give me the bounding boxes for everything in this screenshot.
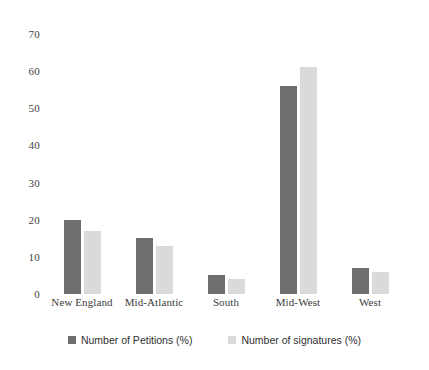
bar-chart: 706050403020100 New EnglandMid-AtlanticS… <box>0 0 429 370</box>
x-axis-label: Mid-Atlantic <box>118 296 190 316</box>
x-axis-label: Mid-West <box>262 296 334 316</box>
plot-area <box>46 34 406 294</box>
bar-group <box>262 34 334 294</box>
legend-swatch-icon <box>68 336 76 344</box>
legend-entry[interactable]: Number of Petitions (%) <box>68 334 192 346</box>
bar-group <box>334 34 406 294</box>
y-axis-tick: 20 <box>29 214 40 226</box>
y-axis: 706050403020100 <box>0 34 40 294</box>
bar-group <box>118 34 190 294</box>
bar[interactable] <box>84 231 101 294</box>
bar[interactable] <box>228 279 245 294</box>
bar[interactable] <box>300 67 317 294</box>
bar[interactable] <box>136 238 153 294</box>
bar-group <box>190 34 262 294</box>
y-axis-tick: 70 <box>29 28 40 40</box>
y-axis-tick: 40 <box>29 139 40 151</box>
x-axis-labels: New EnglandMid-AtlanticSouthMid-WestWest <box>46 296 406 316</box>
chart-legend: Number of Petitions (%)Number of signatu… <box>0 334 429 346</box>
x-axis-label: South <box>190 296 262 316</box>
bars-layer <box>46 34 406 294</box>
x-axis-label: West <box>334 296 406 316</box>
bar[interactable] <box>64 220 81 294</box>
legend-swatch-icon <box>228 336 236 344</box>
y-axis-tick: 50 <box>29 102 40 114</box>
y-axis-tick: 0 <box>34 288 40 300</box>
bar-group <box>46 34 118 294</box>
x-axis-label: New England <box>46 296 118 316</box>
y-axis-tick: 60 <box>29 65 40 77</box>
legend-entry[interactable]: Number of signatures (%) <box>228 334 361 346</box>
y-axis-tick: 10 <box>29 251 40 263</box>
legend-label: Number of Petitions (%) <box>81 334 192 346</box>
bar[interactable] <box>208 275 225 294</box>
bar[interactable] <box>280 86 297 294</box>
bar[interactable] <box>372 272 389 294</box>
y-axis-tick: 30 <box>29 177 40 189</box>
legend-label: Number of signatures (%) <box>241 334 361 346</box>
bar[interactable] <box>352 268 369 294</box>
bar[interactable] <box>156 246 173 294</box>
